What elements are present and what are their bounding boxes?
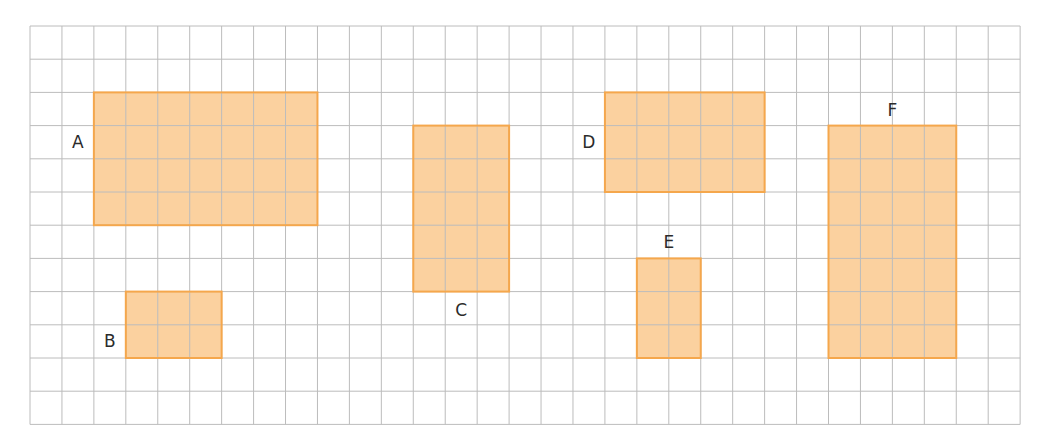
rectangle-c [413,126,509,292]
shape-label-a: A [72,132,84,152]
shape-label-e: E [663,232,674,252]
shape-label-f: F [887,100,897,120]
shape-label-d: D [582,132,595,152]
grid-diagram [0,0,1048,447]
shape-label-c: C [455,300,467,320]
shape-label-b: B [104,331,116,351]
rectangle-d [605,92,765,192]
